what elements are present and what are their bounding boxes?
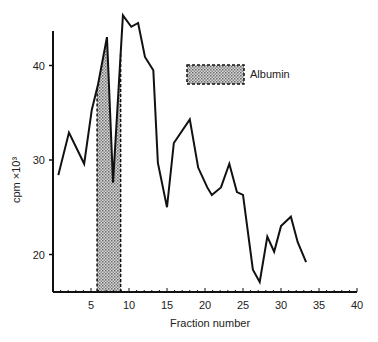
y-axis-ticks: 203040 — [33, 60, 53, 261]
fraction-chart: 510152025303540 203040 Albumin Fraction … — [0, 0, 378, 342]
y-tick-label: 30 — [33, 154, 45, 166]
x-tick-label: 10 — [123, 299, 135, 311]
x-tick-label: 20 — [199, 299, 211, 311]
x-tick-label: 15 — [161, 299, 173, 311]
x-tick-label: 25 — [237, 299, 249, 311]
x-tick-label: 30 — [275, 299, 287, 311]
x-tick-label: 35 — [313, 299, 325, 311]
cpm-data-line — [58, 15, 306, 281]
y-tick-label: 20 — [33, 249, 45, 261]
legend-albumin-swatch — [187, 65, 244, 84]
x-axis-title: Fraction number — [170, 317, 250, 329]
x-tick-label: 40 — [351, 299, 363, 311]
y-axis-title: cpm ×10³ — [10, 157, 22, 203]
y-tick-label: 40 — [33, 60, 45, 72]
x-tick-label: 5 — [88, 299, 94, 311]
legend-albumin-label: Albumin — [250, 68, 290, 80]
